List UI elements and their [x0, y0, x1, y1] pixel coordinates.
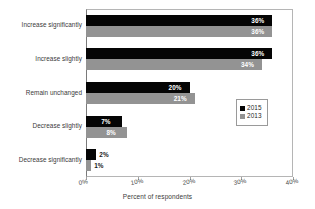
bar-value-label: 21% [174, 93, 187, 104]
bar-value-label: 8% [106, 127, 115, 138]
legend-swatch-2015 [240, 106, 245, 111]
bar-row: 1% [86, 160, 293, 171]
bar-2015-2 [86, 48, 272, 59]
legend-label-2015: 2015 [247, 105, 262, 111]
bar-value-label: 36% [251, 48, 264, 59]
chart-legend: 2015 2013 [236, 99, 268, 126]
bar-2015-5 [86, 149, 96, 160]
category-label-3: Remain unchanged [26, 90, 82, 96]
bar-2013-1 [86, 26, 272, 37]
chart-category-group: 2%1% [86, 143, 293, 177]
bar-value-label: 34% [241, 59, 254, 70]
legend-item-2013: 2013 [240, 113, 262, 119]
bar-row: 36% [86, 15, 293, 26]
x-tick-label-0pct: 0% [78, 178, 88, 186]
chart-category-group: 36%34% [86, 43, 293, 77]
x-tick-label-10pct: 10% [130, 177, 144, 186]
bar-row: 34% [86, 59, 293, 70]
bar-value-label: 2% [99, 149, 108, 160]
category-label-4: Decrease slightly [32, 123, 82, 129]
bar-value-label: 7% [101, 116, 110, 127]
x-axis-title: Percent of respondents [0, 193, 315, 200]
bar-value-label: 36% [251, 26, 264, 37]
category-label-2: Increase slightly [35, 56, 82, 62]
bar-row: 36% [86, 26, 293, 37]
bar-row: 20% [86, 82, 293, 93]
category-label-5: Decrease significantly [19, 157, 82, 163]
bar-2013-2 [86, 59, 262, 70]
legend-item-2015: 2015 [240, 105, 262, 111]
bar-chart: 36%36%Increase significantly36%34%Increa… [0, 0, 315, 209]
x-tick-label-30pct: 30% [233, 177, 247, 186]
bar-row: 36% [86, 48, 293, 59]
bar-value-label: 20% [169, 82, 182, 93]
category-label-1: Increase significantly [22, 22, 82, 28]
legend-label-2013: 2013 [247, 113, 262, 119]
bar-2013-5 [86, 160, 91, 171]
bar-row: 2% [86, 149, 293, 160]
bar-row: 8% [86, 127, 293, 138]
legend-swatch-2013 [240, 114, 245, 119]
bar-value-label: 36% [251, 15, 264, 26]
bar-value-label: 1% [94, 160, 103, 171]
bar-2015-1 [86, 15, 272, 26]
x-tick-label-40pct: 40% [285, 177, 299, 186]
x-tick-label-20pct: 20% [182, 177, 196, 186]
chart-category-group: 36%36% [86, 9, 293, 43]
